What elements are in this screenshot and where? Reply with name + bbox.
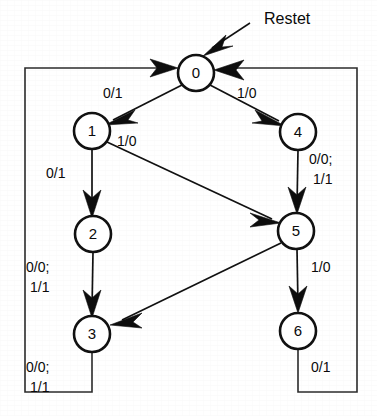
edge-label-3-to-0-line2: 1/1 (30, 379, 50, 395)
edge-label-1-to-5: 1/0 (117, 133, 137, 149)
edge-label-4-to-5-line2: 1/1 (313, 171, 333, 187)
state-node-5[interactable]: 5 (278, 213, 314, 249)
state-node-2[interactable]: 2 (75, 216, 111, 252)
state-node-0[interactable]: 0 (178, 55, 214, 91)
edge-label-3-to-0: 0/0; 1/1 (26, 359, 50, 395)
edge-label-0-to-1: 0/1 (103, 85, 123, 101)
state-label-2: 2 (89, 225, 97, 242)
reset-label: Restet (264, 10, 311, 27)
arrowhead-reset-to-0 (203, 35, 233, 56)
edge-label-5-to-6: 1/0 (311, 259, 331, 275)
state-label-0: 0 (192, 64, 200, 81)
state-node-3[interactable]: 3 (74, 316, 110, 352)
edge-label-4-to-5-line1: 0/0; (309, 151, 332, 167)
state-label-1: 1 (88, 122, 96, 139)
edge-5-to-3-path (122, 243, 281, 320)
edge-label-2-to-3-line1: 0/0; (26, 259, 49, 275)
edge-label-3-to-0-line1: 0/0; (26, 359, 49, 375)
arrowhead-5-to-3 (110, 313, 142, 328)
arrowhead-6-to-0 (214, 60, 244, 80)
state-machine-diagram: 0 1 4 2 5 3 6 Restet 0/1 1/0 1/0 0/1 0/0… (0, 0, 377, 416)
state-label-3: 3 (88, 325, 96, 342)
edge-label-6-to-0: 0/1 (311, 359, 331, 375)
state-node-1[interactable]: 1 (74, 113, 110, 149)
state-node-6[interactable]: 6 (280, 313, 316, 349)
edge-label-4-to-5: 0/0; 1/1 (309, 151, 333, 187)
edge-label-2-to-3: 0/0; 1/1 (26, 259, 50, 295)
edge-label-0-to-4: 1/0 (237, 85, 257, 101)
arrowhead-0-to-1 (105, 110, 138, 125)
state-label-6: 6 (294, 322, 302, 339)
state-node-4[interactable]: 4 (280, 114, 316, 150)
state-label-5: 5 (292, 222, 300, 239)
edge-1-to-5-path (107, 142, 272, 219)
edge-label-1-to-2: 0/1 (46, 165, 66, 181)
state-label-4: 4 (294, 123, 302, 140)
edge-0-to-1-path (113, 85, 182, 120)
edge-label-2-to-3-line2: 1/1 (30, 279, 50, 295)
arrowhead-0-to-4 (252, 110, 285, 126)
